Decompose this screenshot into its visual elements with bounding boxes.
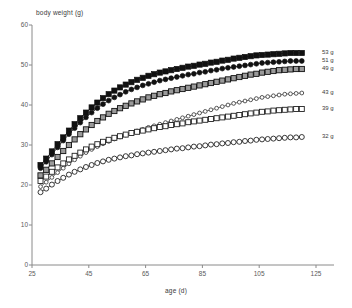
data-point bbox=[152, 126, 157, 131]
data-point bbox=[237, 139, 242, 144]
data-point bbox=[135, 152, 140, 157]
data-point bbox=[272, 94, 276, 98]
data-point bbox=[289, 92, 293, 96]
data-point bbox=[95, 100, 100, 105]
data-point bbox=[100, 96, 105, 101]
data-point bbox=[134, 77, 139, 82]
data-point bbox=[299, 50, 304, 55]
data-point bbox=[112, 156, 117, 161]
data-point bbox=[271, 108, 276, 113]
data-point bbox=[282, 135, 287, 140]
legend-label-39-g: 39 g bbox=[322, 105, 334, 111]
data-point bbox=[49, 182, 54, 187]
data-point bbox=[112, 135, 117, 140]
data-point bbox=[260, 61, 265, 66]
data-point bbox=[186, 72, 191, 77]
data-point bbox=[276, 51, 281, 56]
data-point bbox=[283, 92, 287, 96]
data-point bbox=[294, 107, 299, 112]
data-point bbox=[259, 52, 264, 57]
data-point bbox=[123, 132, 128, 137]
data-point bbox=[146, 150, 151, 155]
data-point bbox=[146, 127, 151, 132]
data-point bbox=[231, 140, 236, 145]
data-point bbox=[100, 115, 105, 120]
data-point bbox=[237, 74, 242, 79]
data-point bbox=[49, 152, 54, 157]
data-point bbox=[72, 169, 77, 174]
data-point bbox=[89, 110, 94, 115]
data-point bbox=[140, 128, 145, 133]
data-point bbox=[288, 50, 293, 55]
legend-label-43-g: 43 g bbox=[322, 89, 334, 95]
data-point bbox=[55, 165, 60, 170]
data-point bbox=[112, 108, 117, 113]
data-point bbox=[66, 172, 71, 177]
data-point bbox=[174, 66, 179, 71]
data-point bbox=[197, 144, 202, 149]
data-point bbox=[118, 155, 123, 160]
data-point bbox=[61, 166, 65, 170]
data-point bbox=[61, 138, 66, 143]
data-point bbox=[214, 116, 219, 121]
data-point bbox=[277, 136, 282, 141]
data-point bbox=[271, 68, 276, 73]
data-point bbox=[157, 70, 162, 75]
data-point bbox=[220, 115, 225, 120]
data-point bbox=[220, 78, 225, 83]
data-point bbox=[198, 111, 202, 115]
data-point bbox=[242, 73, 247, 78]
data-point bbox=[288, 107, 293, 112]
data-point bbox=[106, 137, 111, 142]
data-point bbox=[254, 97, 258, 101]
data-point bbox=[254, 71, 259, 76]
data-point bbox=[243, 112, 248, 117]
data-point bbox=[180, 146, 185, 151]
data-point bbox=[180, 86, 185, 91]
data-point bbox=[129, 101, 134, 106]
data-point bbox=[299, 66, 304, 71]
data-point bbox=[112, 88, 117, 93]
data-point bbox=[242, 54, 247, 59]
data-point bbox=[237, 100, 241, 104]
data-point bbox=[265, 60, 270, 65]
data-point bbox=[225, 57, 230, 62]
legend-label-32-g: 32 g bbox=[322, 133, 334, 139]
data-point bbox=[95, 106, 100, 111]
data-point bbox=[294, 92, 298, 96]
data-point bbox=[186, 64, 191, 69]
data-point bbox=[175, 118, 179, 122]
data-point bbox=[231, 56, 236, 61]
data-point bbox=[248, 54, 253, 59]
data-point bbox=[191, 119, 196, 124]
data-point bbox=[232, 102, 236, 106]
data-point bbox=[169, 76, 174, 81]
data-point bbox=[225, 114, 230, 119]
data-point bbox=[271, 136, 276, 141]
data-point bbox=[288, 67, 293, 72]
data-point bbox=[169, 68, 174, 73]
data-point bbox=[254, 61, 259, 66]
series-layer bbox=[38, 50, 304, 194]
data-point bbox=[282, 107, 287, 112]
data-point bbox=[106, 157, 111, 162]
data-point bbox=[55, 145, 60, 150]
data-point bbox=[277, 108, 282, 113]
data-point bbox=[197, 70, 202, 75]
data-point bbox=[152, 149, 157, 154]
data-point bbox=[61, 161, 66, 166]
data-point bbox=[208, 80, 213, 85]
data-point bbox=[248, 62, 253, 67]
data-point bbox=[243, 63, 248, 68]
data-point bbox=[192, 113, 196, 117]
data-point bbox=[260, 137, 265, 142]
data-point bbox=[78, 150, 83, 155]
data-point bbox=[44, 159, 49, 164]
data-point bbox=[78, 167, 83, 172]
data-point bbox=[181, 116, 185, 120]
data-point bbox=[140, 83, 145, 88]
data-point bbox=[180, 73, 185, 78]
data-point bbox=[163, 90, 168, 95]
data-point bbox=[95, 142, 100, 147]
data-point bbox=[288, 135, 293, 140]
